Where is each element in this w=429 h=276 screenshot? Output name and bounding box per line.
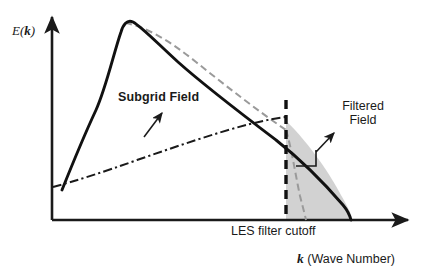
energy-spectrum-figure: E(k) k (Wave Number) Subgrid Field Filte… — [0, 0, 429, 276]
diagram-canvas — [0, 0, 429, 276]
les-filter-cutoff-label: LES filter cutoff — [231, 224, 316, 238]
resolved-spectrum-curve — [125, 23, 306, 220]
subgrid-leader-arrow — [144, 113, 162, 137]
x-axis-label-symbol: k — [297, 251, 304, 266]
y-axis-label: E(k) — [12, 24, 35, 39]
filtered-field-label: Filtered Field — [332, 99, 394, 128]
x-axis-label-text: (Wave Number) — [304, 252, 395, 266]
x-axis-label: k (Wave Number) — [297, 251, 395, 267]
filtered-field-label-line2: Field — [332, 113, 394, 127]
y-axis-label-prefix: E( — [12, 23, 24, 38]
subgrid-field-label: Subgrid Field — [118, 90, 199, 104]
y-axis-label-suffix: ) — [31, 23, 35, 38]
filtered-field-label-line1: Filtered — [332, 99, 394, 113]
